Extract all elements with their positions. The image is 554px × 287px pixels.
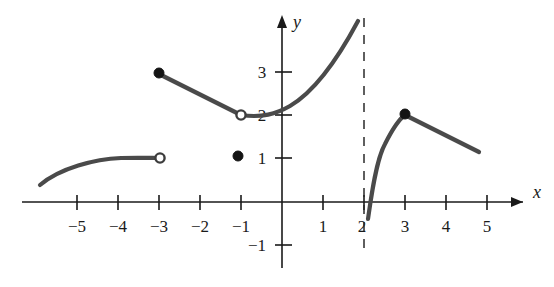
curve-right-falling — [405, 115, 479, 152]
curve-left-branch — [40, 158, 159, 185]
x-tick-labels: −5 −4 −3 −2 −1 1 2 3 4 5 — [68, 217, 491, 236]
curve-middle-segment — [159, 74, 241, 115]
x-tick-label-2: 2 — [358, 217, 367, 236]
x-axis-arrowhead — [511, 197, 523, 207]
x-tick-label--1: −1 — [232, 217, 250, 236]
x-axis-label: x — [532, 182, 541, 202]
y-tick-label-3: 3 — [258, 63, 267, 82]
x-tick-label-5: 5 — [483, 217, 492, 236]
x-tick-label--2: −2 — [191, 217, 209, 236]
x-tick-label-1: 1 — [319, 217, 328, 236]
x-tick-label--5: −5 — [68, 217, 86, 236]
x-tick-label-3: 3 — [401, 217, 410, 236]
open-point-left-branch — [155, 153, 164, 162]
y-axis-arrowhead — [277, 15, 287, 28]
x-tick-label--4: −4 — [109, 217, 128, 236]
curve-right-rising — [368, 115, 405, 219]
filled-point-isolated — [233, 151, 243, 161]
filled-point-middle-start — [154, 68, 164, 78]
open-point-middle-join — [236, 110, 245, 119]
y-tick-label-1: 1 — [258, 149, 267, 168]
y-tick-marks — [275, 72, 292, 245]
filled-point-right-peak — [400, 109, 410, 119]
y-tick-labels: 3 2 1 −1 — [248, 63, 266, 255]
y-tick-label--1: −1 — [248, 236, 266, 255]
y-axis-label: y — [291, 12, 301, 32]
x-tick-label-4: 4 — [442, 217, 451, 236]
graph-canvas: −5 −4 −3 −2 −1 1 2 3 4 5 3 2 1 −1 x y — [0, 0, 554, 287]
function-graph-figure: −5 −4 −3 −2 −1 1 2 3 4 5 3 2 1 −1 x y — [0, 0, 554, 287]
x-tick-label--3: −3 — [150, 217, 168, 236]
